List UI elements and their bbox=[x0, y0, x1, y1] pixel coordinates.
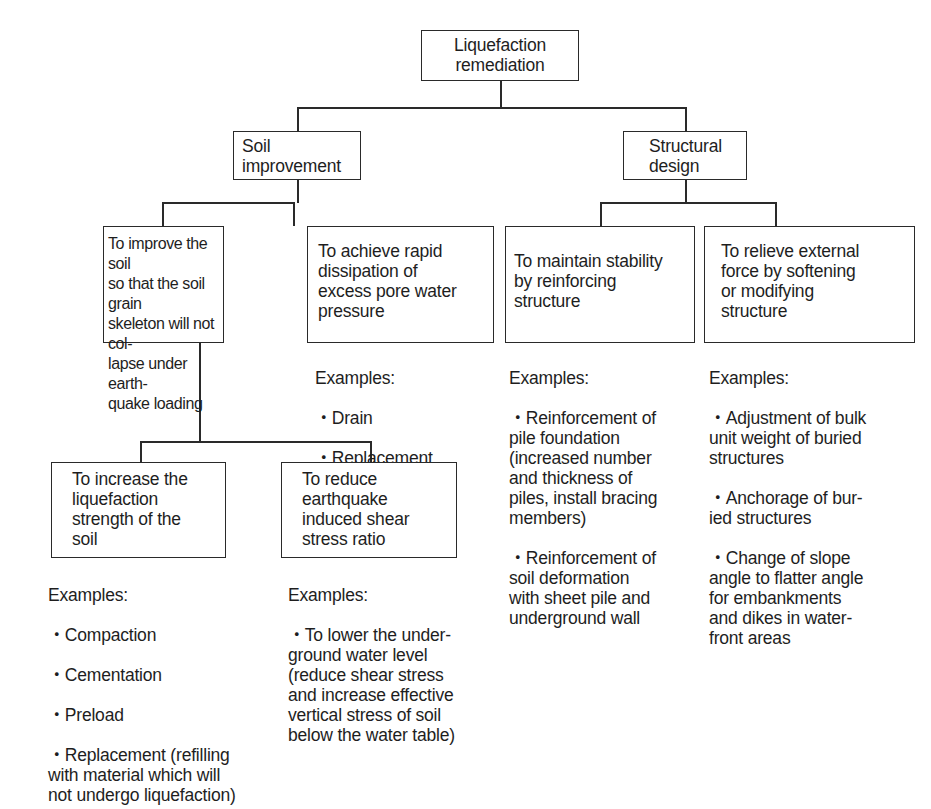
example-item: ・Reinforcement of pile foundation (incre… bbox=[509, 408, 657, 528]
examples-reduce-shear-stress-ratio: Examples: ・To lower the under- ground wa… bbox=[288, 565, 455, 765]
example-item: ・Anchorage of bur- ied structures bbox=[709, 488, 866, 528]
examples-header: Examples: bbox=[48, 585, 236, 605]
connector-structural-bar bbox=[600, 202, 776, 204]
examples-header: Examples: bbox=[509, 368, 657, 388]
node-rapid-dissipation: To achieve rapid dissipation of excess p… bbox=[307, 226, 494, 343]
examples-header: Examples: bbox=[709, 368, 866, 388]
example-item: ・Change of slope angle to flatter angle … bbox=[709, 548, 866, 648]
node-improve-soil-label: To improve the soil so that the soil gra… bbox=[108, 234, 223, 414]
connector-to-soil-improvement bbox=[297, 107, 299, 131]
example-item: ・Preload bbox=[48, 705, 236, 725]
node-maintain-stability-label: To maintain stability by reinforcing str… bbox=[514, 251, 694, 311]
root-node-liquefaction-remediation: Liquefaction remediation bbox=[421, 30, 579, 81]
examples-header: Examples: bbox=[288, 585, 455, 605]
connector-to-maintain-stability bbox=[600, 202, 602, 226]
example-item: ・Replacement (refilling with material wh… bbox=[48, 745, 236, 805]
connector-to-structural-design bbox=[685, 107, 687, 131]
node-rapid-dissipation-label: To achieve rapid dissipation of excess p… bbox=[318, 241, 493, 321]
connector-to-increase-strength bbox=[140, 441, 142, 463]
node-reduce-shear-label: To reduce earthquake induced shear stres… bbox=[302, 469, 456, 549]
example-item: ・Adjustment of bulk unit weight of burie… bbox=[709, 408, 866, 468]
node-increase-liquefaction-strength: To increase the liquefaction strength of… bbox=[51, 462, 226, 558]
example-item: ・Compaction bbox=[48, 625, 236, 645]
connector-to-relieve-force bbox=[775, 202, 777, 226]
connector-structural-down bbox=[685, 179, 687, 203]
node-structural-design: Structural design bbox=[623, 131, 747, 180]
example-item: ・Reinforcement of soil deformation with … bbox=[509, 548, 657, 628]
node-soil-improvement: Soil improvement bbox=[233, 131, 361, 180]
connector-root-down bbox=[500, 80, 502, 108]
example-item: ・Drain bbox=[315, 408, 433, 428]
node-structural-design-label: Structural design bbox=[649, 136, 746, 176]
examples-maintain-stability: Examples: ・Reinforcement of pile foundat… bbox=[509, 348, 657, 648]
example-item: ・Cementation bbox=[48, 665, 236, 685]
connector-to-rapid-dissipation bbox=[293, 202, 295, 226]
node-increase-strength-label: To increase the liquefaction strength of… bbox=[72, 469, 225, 549]
node-relieve-external-force-label: To relieve external force by softening o… bbox=[721, 241, 914, 321]
examples-relieve-external-force: Examples: ・Adjustment of bulk unit weigh… bbox=[709, 348, 866, 668]
connector-to-improve-soil bbox=[162, 202, 164, 226]
connector-soil-bar bbox=[162, 202, 294, 204]
connector-level1-bar bbox=[297, 107, 686, 109]
node-reduce-shear-stress-ratio: To reduce earthquake induced shear stres… bbox=[281, 462, 457, 558]
node-improve-soil-grain-skeleton: To improve the soil so that the soil gra… bbox=[103, 226, 224, 343]
examples-increase-liquefaction-strength: Examples: ・Compaction ・Cementation ・Prel… bbox=[48, 565, 236, 809]
example-item: ・To lower the under- ground water level … bbox=[288, 625, 455, 745]
root-node-label: Liquefaction remediation bbox=[422, 35, 578, 75]
node-soil-improvement-label: Soil improvement bbox=[242, 136, 360, 176]
node-maintain-stability: To maintain stability by reinforcing str… bbox=[505, 226, 695, 343]
node-relieve-external-force: To relieve external force by softening o… bbox=[704, 226, 915, 343]
connector-soil-down bbox=[297, 179, 299, 203]
examples-header: Examples: bbox=[315, 368, 433, 388]
